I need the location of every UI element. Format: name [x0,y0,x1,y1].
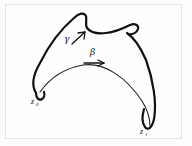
z0-label-base: z [30,97,35,106]
figure-root: γ β z 0 z 1 [0,0,192,146]
z1-label-base: z [139,127,144,136]
inner-arc-curve [40,65,150,126]
beta-label: β [89,47,95,57]
gamma-arrow-shaft [72,32,85,44]
diagram-canvas: γ β z 0 z 1 [0,0,192,146]
z1-label-subscript: 1 [145,132,148,137]
gamma-arrow [72,32,85,44]
z0-hook [36,92,44,100]
gamma-label: γ [64,34,70,44]
right-boundary-curve [127,33,155,129]
z0-label-subscript: 0 [36,102,39,107]
